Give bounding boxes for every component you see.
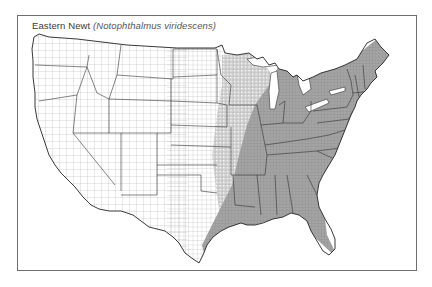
map-body: [17, 15, 417, 271]
us-county-map: [17, 15, 417, 271]
